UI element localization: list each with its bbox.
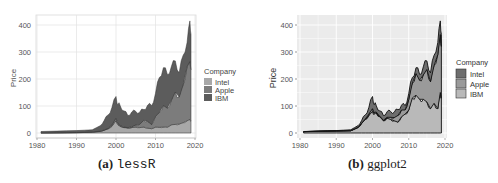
caption-tag: (b) (348, 156, 364, 171)
svg-text:400: 400 (18, 21, 31, 30)
svg-text:300: 300 (280, 48, 293, 57)
svg-text:2000: 2000 (108, 141, 125, 150)
x-axis-ticks: 19801990200020102020 (29, 138, 204, 150)
caption-package-name: ggplot2 (367, 156, 407, 171)
svg-text:2020: 2020 (187, 141, 204, 150)
legend-title: Company (456, 58, 488, 67)
legend: Company Intel Apple IBM (204, 67, 236, 103)
caption-b: (b) ggplot2 (348, 156, 407, 172)
legend-swatch-intel (204, 78, 212, 85)
svg-text:100: 100 (280, 102, 293, 111)
svg-text:100: 100 (18, 102, 31, 111)
svg-text:200: 200 (18, 75, 31, 84)
legend-swatch-ibm (456, 89, 466, 98)
svg-text:1990: 1990 (328, 141, 345, 150)
chart-panel-lessr: 0100200300400 19801990200020102020 Price… (0, 0, 250, 183)
svg-text:300: 300 (18, 48, 31, 57)
x-axis-ticks: 19801990200020102020 (292, 138, 454, 150)
legend-swatch-intel (456, 69, 466, 78)
legend-swatch-ibm (204, 94, 212, 101)
svg-text:2010: 2010 (400, 141, 417, 150)
svg-text:2000: 2000 (364, 141, 381, 150)
ggplot2-stacked-area-chart: 0100200300400 19801990200020102020 Price… (250, 0, 498, 150)
caption-tag: (a) (98, 156, 113, 171)
svg-text:2020: 2020 (437, 141, 454, 150)
legend: Company Intel Apple IBM (456, 58, 489, 99)
svg-text:0: 0 (289, 129, 293, 138)
y-axis-ticks: 0100200300400 (280, 21, 297, 138)
caption-package-name: lessR (116, 157, 155, 172)
svg-text:400: 400 (280, 21, 293, 30)
svg-text:2010: 2010 (147, 141, 164, 150)
svg-text:1980: 1980 (29, 141, 46, 150)
legend-label-ibm: IBM (215, 94, 228, 103)
svg-text:1980: 1980 (292, 141, 309, 150)
chart-panel-ggplot2: 0100200300400 19801990200020102020 Price… (250, 0, 498, 183)
svg-text:0: 0 (27, 129, 31, 138)
y-axis-label: Price (268, 68, 278, 89)
y-axis-label: Price (9, 68, 18, 87)
svg-text:200: 200 (280, 75, 293, 84)
legend-label-intel: Intel (470, 70, 485, 79)
svg-text:1990: 1990 (68, 141, 85, 150)
y-axis-ticks: 0100200300400 (18, 21, 31, 138)
legend-swatch-apple (204, 86, 212, 93)
legend-title: Company (204, 67, 236, 76)
legend-label-ibm: IBM (470, 90, 483, 99)
caption-a: (a) lessR (98, 156, 155, 172)
lessr-stacked-area-chart: 0100200300400 19801990200020102020 Price… (0, 0, 250, 150)
legend-swatch-apple (456, 79, 466, 88)
legend-label-apple: Apple (470, 80, 489, 89)
